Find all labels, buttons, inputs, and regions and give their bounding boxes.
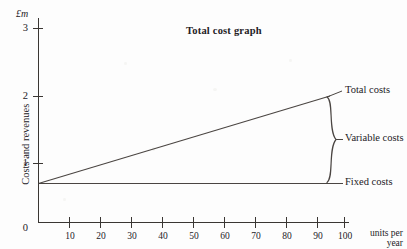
x-axis-title-line1: units per — [370, 228, 403, 238]
x-tick-label-20: 20 — [90, 232, 112, 242]
x-tick-label-90: 90 — [307, 232, 329, 242]
x-tick-label-30: 30 — [121, 232, 143, 242]
series-label-total-costs: Total costs — [345, 85, 390, 96]
y-tick-label-0: 0 — [14, 223, 28, 234]
total-costs-line — [39, 96, 331, 184]
y-tick-label-1: 1 — [14, 158, 28, 169]
y-axis-unit-label: £m — [16, 9, 28, 19]
series-label-fixed-costs: Fixed costs — [345, 177, 393, 188]
y-tick-label-2: 2 — [14, 91, 28, 102]
chart-plot-area — [0, 0, 407, 249]
total-costs-leader-line — [327, 91, 342, 97]
variable-costs-brace — [327, 97, 336, 183]
y-axis-title: Costs and revenues — [21, 84, 32, 204]
x-tick-label-50: 50 — [183, 232, 205, 242]
x-axis-title: units peryear — [347, 228, 403, 248]
annotation-label-variable-costs: Variable costs — [345, 133, 404, 144]
x-tick-label-10: 10 — [59, 232, 81, 242]
x-tick-label-80: 80 — [276, 232, 298, 242]
x-tick-label-40: 40 — [152, 232, 174, 242]
x-axis-title-line2: year — [387, 238, 403, 248]
chart-figure: Total cost graph £m Costs and revenues 3… — [0, 0, 407, 249]
x-tick-label-70: 70 — [245, 232, 267, 242]
page-title: Total cost graph — [186, 26, 262, 37]
y-tick-label-3: 3 — [14, 23, 28, 34]
x-tick-label-60: 60 — [214, 232, 236, 242]
